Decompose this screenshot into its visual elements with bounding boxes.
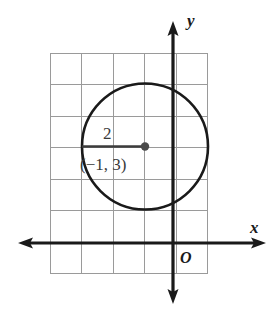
center-coordinates-label: (−1, 3) xyxy=(80,155,126,174)
x-axis-label: x xyxy=(249,218,259,237)
origin-label: O xyxy=(180,249,192,266)
y-axis xyxy=(168,21,179,304)
coordinate-plane-figure: y x O 2 (−1, 3) xyxy=(0,0,275,325)
radius-length-label: 2 xyxy=(103,124,112,143)
y-axis-label: y xyxy=(185,11,195,30)
center-point-dot xyxy=(141,142,149,150)
x-axis xyxy=(18,238,266,249)
coordinate-plane-svg: y x O 2 (−1, 3) xyxy=(0,0,275,325)
